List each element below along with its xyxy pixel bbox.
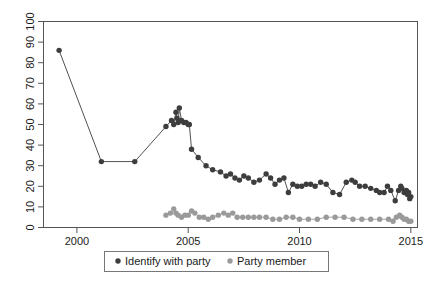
data-point <box>203 163 208 168</box>
data-point <box>332 215 337 220</box>
data-point <box>263 171 268 176</box>
chart-svg: 0102030405060708090100 2000200520102015 … <box>0 0 432 283</box>
data-point <box>246 175 251 180</box>
x-axis-tick-labels: 2000200520102015 <box>65 235 423 247</box>
y-tick-label: 40 <box>24 139 36 151</box>
data-point <box>192 210 197 215</box>
data-point <box>234 215 239 220</box>
y-tick-label: 100 <box>24 12 36 30</box>
data-point <box>218 169 223 174</box>
y-tick-label: 10 <box>24 201 36 213</box>
y-tick-label: 60 <box>24 98 36 110</box>
data-point <box>324 215 329 220</box>
plot-frame <box>44 22 418 228</box>
data-point <box>283 215 288 220</box>
y-tick-label: 70 <box>24 77 36 89</box>
data-point <box>277 217 282 222</box>
data-point <box>368 217 373 222</box>
y-axis-tick-labels: 0102030405060708090100 <box>24 12 36 230</box>
data-point <box>315 217 320 222</box>
data-point <box>362 184 367 189</box>
data-point <box>216 212 221 217</box>
chart-container: 0102030405060708090100 2000200520102015 … <box>0 0 432 283</box>
data-point <box>341 215 346 220</box>
chart-legend: Identify with partyParty member <box>105 252 329 272</box>
data-point <box>318 179 323 184</box>
data-point <box>240 215 245 220</box>
data-point <box>210 167 215 172</box>
y-axis-ticks <box>38 22 44 228</box>
legend-marker-icon <box>115 258 120 263</box>
data-point <box>228 171 233 176</box>
data-point <box>263 215 268 220</box>
data-point <box>357 184 362 189</box>
data-point <box>196 155 201 160</box>
data-point <box>344 179 349 184</box>
data-point <box>377 217 382 222</box>
data-point <box>290 215 295 220</box>
data-point <box>330 190 335 195</box>
y-tick-label: 90 <box>24 36 36 48</box>
data-point <box>297 217 302 222</box>
x-tick-label: 2005 <box>176 235 200 247</box>
data-point <box>163 124 168 129</box>
data-point <box>251 215 256 220</box>
data-point <box>99 159 104 164</box>
y-tick-label: 20 <box>24 180 36 192</box>
data-point <box>237 177 242 182</box>
data-point <box>393 198 398 203</box>
data-series-layer <box>56 48 413 224</box>
data-point <box>272 182 277 187</box>
data-point <box>270 217 275 222</box>
data-point <box>359 217 364 222</box>
data-point <box>368 186 373 191</box>
data-point <box>187 122 192 127</box>
x-tick-label: 2010 <box>287 235 311 247</box>
data-point <box>177 105 182 110</box>
data-point <box>306 217 311 222</box>
y-tick-label: 80 <box>24 57 36 69</box>
data-point <box>132 159 137 164</box>
y-tick-label: 50 <box>24 118 36 130</box>
legend-label: Identify with party <box>125 255 211 267</box>
data-point <box>251 179 256 184</box>
legend-item[interactable]: Identify with party <box>115 255 211 267</box>
data-point <box>56 48 61 53</box>
data-point <box>408 194 413 199</box>
series-party-member <box>163 206 413 224</box>
x-tick-label: 2015 <box>399 235 423 247</box>
x-tick-label: 2000 <box>65 235 89 247</box>
data-point <box>324 182 329 187</box>
legend-marker-icon <box>227 258 232 263</box>
data-point <box>268 175 273 180</box>
data-point <box>381 190 386 195</box>
data-point <box>286 190 291 195</box>
data-point <box>189 147 194 152</box>
legend-label: Party member <box>237 255 306 267</box>
data-point <box>408 219 413 224</box>
legend-item[interactable]: Party member <box>227 255 306 267</box>
data-point <box>230 210 235 215</box>
series-identify-with-party <box>56 48 413 204</box>
data-point <box>312 184 317 189</box>
y-tick-label: 0 <box>24 224 36 230</box>
data-point <box>210 215 215 220</box>
data-point <box>352 179 357 184</box>
data-point <box>337 192 342 197</box>
data-point <box>350 217 355 222</box>
data-point <box>281 175 286 180</box>
data-point <box>257 215 262 220</box>
x-axis-ticks <box>77 228 411 234</box>
data-point <box>388 188 393 193</box>
data-point <box>257 177 262 182</box>
y-tick-label: 30 <box>24 160 36 172</box>
data-point <box>246 215 251 220</box>
